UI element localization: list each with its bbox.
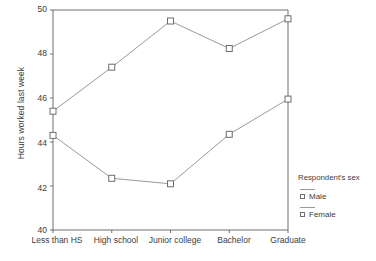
legend-item-male[interactable]: Male bbox=[298, 189, 376, 201]
data-point-female-0[interactable] bbox=[50, 132, 56, 138]
legend-line-female bbox=[300, 207, 315, 208]
data-point-female-1[interactable] bbox=[109, 175, 115, 181]
data-point-male-2[interactable] bbox=[168, 18, 174, 24]
series-line-male bbox=[53, 19, 288, 111]
data-point-male-3[interactable] bbox=[226, 46, 232, 52]
legend: Respondent's sex Male Female bbox=[298, 173, 376, 225]
series-line-female bbox=[53, 99, 288, 184]
legend-label-male: Male bbox=[309, 192, 326, 201]
data-point-female-4[interactable] bbox=[285, 96, 291, 102]
legend-marker-female bbox=[300, 212, 305, 217]
data-point-male-0[interactable] bbox=[50, 108, 56, 114]
legend-item-female[interactable]: Female bbox=[298, 207, 376, 219]
data-point-male-1[interactable] bbox=[109, 64, 115, 70]
legend-label-female: Female bbox=[309, 210, 336, 219]
data-point-female-3[interactable] bbox=[226, 131, 232, 137]
data-point-female-2[interactable] bbox=[168, 181, 174, 187]
legend-marker-male bbox=[300, 194, 305, 199]
legend-line-male bbox=[300, 189, 315, 190]
data-point-male-4[interactable] bbox=[285, 16, 291, 22]
legend-title: Respondent's sex bbox=[298, 173, 376, 182]
chart-container: Hours worked last week 50 48 46 44 42 40… bbox=[0, 0, 376, 261]
